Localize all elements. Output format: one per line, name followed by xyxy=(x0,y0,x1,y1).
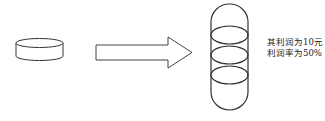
stacked-cylinder xyxy=(211,4,248,110)
profit-text: 其利润为10元 xyxy=(267,37,323,48)
profit-margin-text: 利润率为50% xyxy=(267,48,323,59)
profit-annotation: 其利润为10元 利润率为50% xyxy=(267,37,323,59)
diagram-canvas xyxy=(0,0,325,121)
right-arrow xyxy=(96,37,192,68)
single-cylinder xyxy=(16,39,63,61)
